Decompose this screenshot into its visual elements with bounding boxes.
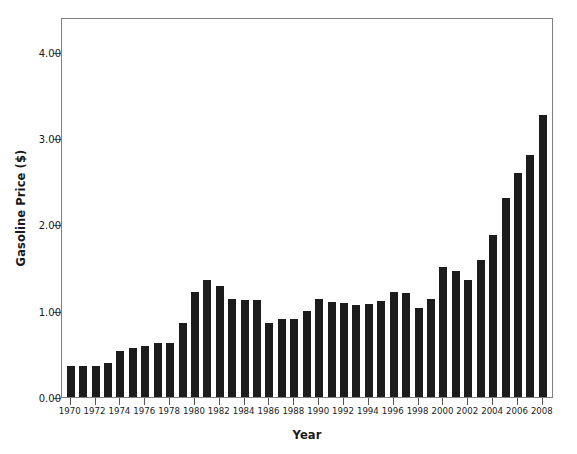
bar — [315, 299, 323, 397]
x-tick-mark — [542, 398, 543, 405]
bar — [278, 319, 286, 397]
bar — [328, 302, 336, 397]
bar — [154, 343, 162, 397]
y-tick-label: 2.00 — [15, 220, 61, 231]
bar — [290, 319, 298, 397]
bar — [415, 308, 423, 397]
x-tick-mark — [393, 398, 394, 405]
gasoline-price-bar-chart: Gasoline Price ($) 0.001.002.003.004.00 … — [0, 0, 577, 454]
y-axis-title: Gasoline Price ($) — [10, 18, 32, 398]
bar — [179, 323, 187, 397]
bar — [191, 292, 199, 397]
x-tick-mark — [144, 398, 145, 405]
bar-series — [62, 19, 552, 397]
bar — [464, 280, 472, 397]
bar — [141, 346, 149, 397]
x-tick-mark — [268, 398, 269, 405]
x-tick-mark — [169, 398, 170, 405]
bar — [129, 348, 137, 397]
y-tick-label: 3.00 — [15, 133, 61, 144]
bar — [241, 300, 249, 397]
bar — [489, 235, 497, 397]
y-tick-label: 0.00 — [15, 393, 61, 404]
bar — [514, 173, 522, 397]
x-axis-title: Year — [61, 428, 553, 442]
bar — [116, 351, 124, 397]
x-tick-mark — [219, 398, 220, 405]
bar — [253, 300, 261, 397]
bar — [477, 260, 485, 397]
bar — [526, 155, 534, 397]
x-tick-mark — [368, 398, 369, 405]
x-tick-mark — [70, 398, 71, 405]
x-tick-mark — [467, 398, 468, 405]
bar — [390, 292, 398, 397]
x-tick-mark — [293, 398, 294, 405]
x-tick-mark — [244, 398, 245, 405]
x-tick-mark — [442, 398, 443, 405]
bar — [265, 323, 273, 397]
bar — [67, 366, 75, 397]
x-tick-mark — [194, 398, 195, 405]
x-tick-mark — [343, 398, 344, 405]
bar — [92, 366, 100, 397]
bar — [79, 366, 87, 397]
bar — [303, 311, 311, 397]
x-tick-label: 2008 — [522, 406, 562, 416]
bar — [216, 286, 224, 397]
y-tick-label: 1.00 — [15, 306, 61, 317]
bar — [340, 303, 348, 397]
bar — [502, 198, 510, 397]
bar — [452, 271, 460, 397]
bar — [365, 304, 373, 397]
plot-area — [61, 18, 553, 398]
bar — [228, 299, 236, 397]
x-tick-mark — [517, 398, 518, 405]
x-tick-mark — [492, 398, 493, 405]
bar — [439, 267, 447, 397]
bar — [377, 301, 385, 397]
x-tick-mark — [95, 398, 96, 405]
bar — [427, 299, 435, 397]
y-tick-label: 4.00 — [15, 47, 61, 58]
bar — [166, 343, 174, 397]
bar — [203, 280, 211, 397]
bar — [539, 115, 547, 397]
bar — [402, 293, 410, 397]
x-tick-mark — [318, 398, 319, 405]
bar — [104, 363, 112, 397]
x-tick-mark — [119, 398, 120, 405]
bar — [352, 305, 360, 397]
x-tick-mark — [418, 398, 419, 405]
